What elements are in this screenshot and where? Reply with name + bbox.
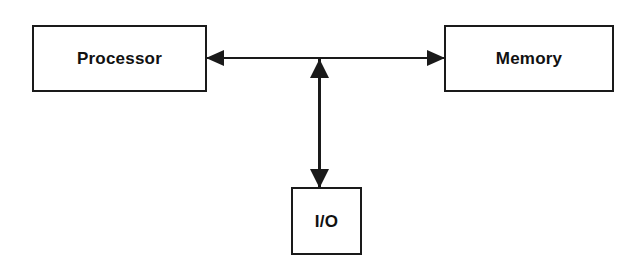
node-memory: Memory	[444, 25, 614, 92]
node-io-label: I/O	[315, 213, 338, 230]
node-io: I/O	[291, 187, 362, 255]
node-processor: Processor	[32, 25, 207, 92]
diagram-canvas: Processor Memory I/O	[0, 0, 642, 261]
node-memory-label: Memory	[496, 50, 562, 67]
arrowhead-right-to-memory-icon	[427, 50, 445, 66]
arrowhead-up-to-bus-icon	[310, 59, 329, 78]
arrowhead-down-to-io-icon	[310, 169, 329, 188]
node-processor-label: Processor	[77, 50, 162, 67]
arrowhead-left-to-processor-icon	[206, 50, 224, 66]
